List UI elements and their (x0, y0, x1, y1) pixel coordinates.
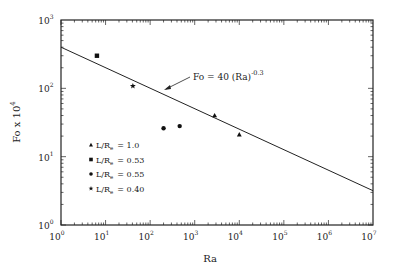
fit-equation-annotation: Fo = 40 (Ra)-0.3 (164, 69, 264, 90)
triangle-marker (237, 132, 242, 136)
legend-entry: L/Re= 0.53 (96, 156, 144, 166)
fit-equation-label: Fo = 40 (Ra)-0.3 (193, 69, 264, 82)
y-tick-label: 100 (38, 218, 53, 231)
x-tick-label: 105 (272, 229, 287, 242)
x-tick-label: 106 (317, 229, 332, 242)
x-tick-label: 103 (183, 229, 198, 242)
legend-circle-icon (89, 172, 93, 176)
legend-triangle-icon (89, 143, 93, 147)
legend-star-icon (89, 186, 94, 191)
y-tick-label: 101 (38, 150, 53, 163)
plot-frame (61, 20, 373, 225)
legend-entry: L/Re= 0.55 (96, 170, 144, 180)
x-tick-labels: 100101102103104105106107 (49, 229, 376, 242)
x-tick-label: 101 (94, 229, 109, 242)
legend-entry: L/Re= 1.0 (96, 141, 139, 151)
circle-marker (177, 124, 181, 128)
chart: 100101102103104105106107 100101102103 L/… (0, 0, 393, 272)
legend-square-icon (89, 158, 93, 162)
x-tick-label: 104 (228, 229, 243, 242)
y-axis-label: Fo x 104 (9, 101, 22, 143)
x-tick-label: 107 (361, 229, 376, 242)
triangle-marker (212, 113, 217, 117)
x-axis-label: Ra (203, 253, 217, 264)
legend: L/Re= 1.0L/Re= 0.53L/Re= 0.55L/Re= 0.40 (89, 141, 145, 195)
x-tick-label: 100 (49, 229, 64, 242)
star-marker (130, 83, 136, 89)
circle-marker (161, 126, 165, 130)
legend-entry: L/Re= 0.40 (96, 185, 144, 195)
x-tick-label: 102 (139, 229, 154, 242)
y-tick-label: 103 (38, 13, 53, 26)
y-tick-labels: 100101102103 (38, 13, 53, 231)
y-tick-label: 102 (38, 81, 53, 94)
axis-ticks (61, 20, 373, 225)
data-points (95, 54, 242, 137)
square-marker (95, 54, 99, 58)
